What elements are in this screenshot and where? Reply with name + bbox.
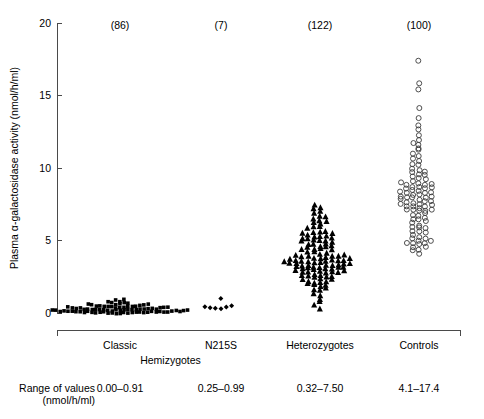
- data-point-classic: [58, 310, 62, 314]
- group-label-n215s: N215S: [205, 339, 237, 351]
- data-point-classic: [118, 300, 122, 304]
- data-point-classic: [150, 307, 154, 311]
- data-point-controls: [404, 240, 409, 245]
- data-point-heterozygotes: [310, 229, 316, 235]
- data-point-heterozygotes: [323, 213, 329, 219]
- data-point-heterozygotes: [311, 246, 317, 252]
- data-point-heterozygotes: [293, 252, 299, 258]
- data-point-classic: [175, 309, 179, 313]
- data-point-classic: [71, 306, 75, 310]
- data-point-classic: [83, 311, 87, 315]
- data-point-controls: [416, 87, 421, 92]
- data-point-classic: [126, 305, 130, 309]
- data-point-classic: [78, 310, 82, 314]
- data-point-heterozygotes: [305, 232, 311, 238]
- data-point-classic: [186, 308, 190, 312]
- data-point-classic: [155, 307, 159, 311]
- data-point-heterozygotes: [324, 250, 330, 256]
- data-point-classic: [126, 308, 130, 312]
- range-value-n215s: 0.25–0.99: [198, 382, 245, 394]
- y-axis-tick-label: 0: [45, 307, 51, 319]
- data-point-heterozygotes: [293, 257, 299, 263]
- data-point-controls: [417, 106, 422, 111]
- data-point-classic: [94, 308, 98, 312]
- data-point-controls: [416, 213, 421, 218]
- data-point-classic: [90, 308, 94, 312]
- data-point-controls: [423, 236, 428, 241]
- data-point-classic: [106, 300, 110, 304]
- data-point-n215s: [218, 306, 223, 311]
- data-point-controls: [429, 207, 434, 212]
- data-point-controls: [399, 180, 404, 185]
- range-value-controls: 4.1–17.4: [399, 382, 440, 394]
- data-point-classic: [74, 307, 78, 311]
- data-point-controls: [417, 81, 422, 86]
- data-point-classic: [122, 301, 126, 305]
- data-point-n215s: [213, 306, 218, 311]
- group-count-heterozygotes: (122): [308, 19, 333, 31]
- data-point-classic: [74, 310, 78, 314]
- data-point-heterozygotes: [341, 252, 347, 258]
- data-point-classic: [182, 309, 186, 313]
- data-point-heterozygotes: [312, 271, 318, 277]
- data-point-classic: [66, 305, 70, 309]
- data-point-classic: [70, 309, 74, 313]
- data-point-controls: [422, 169, 427, 174]
- data-point-controls: [411, 141, 416, 146]
- y-axis-tick-label: 15: [39, 89, 51, 101]
- data-point-classic: [106, 305, 110, 309]
- data-point-classic: [98, 308, 102, 312]
- data-point-heterozygotes: [299, 246, 305, 252]
- range-value-classic: 0.00–0.91: [97, 382, 144, 394]
- data-point-heterozygotes: [310, 216, 316, 222]
- data-point-classic: [126, 301, 130, 305]
- data-point-heterozygotes: [341, 257, 347, 263]
- data-point-classic: [131, 305, 135, 309]
- data-point-heterozygotes: [311, 286, 317, 292]
- data-point-heterozygotes: [287, 256, 293, 262]
- data-point-classic: [110, 309, 114, 313]
- group-label-controls: Controls: [399, 339, 438, 351]
- data-point-n215s: [229, 303, 234, 308]
- range-value-heterozygotes: 0.32–7.50: [297, 382, 344, 394]
- range-row-label-line1: Range of values: [19, 382, 95, 394]
- data-point-classic: [158, 306, 162, 310]
- data-point-classic: [87, 302, 91, 306]
- data-point-heterozygotes: [329, 262, 335, 268]
- data-point-heterozygotes: [317, 306, 323, 312]
- data-point-classic: [118, 306, 122, 310]
- data-point-heterozygotes: [335, 253, 341, 259]
- data-point-n215s: [202, 304, 207, 309]
- data-point-controls: [423, 219, 428, 224]
- data-point-classic: [110, 301, 114, 305]
- data-point-heterozygotes: [317, 251, 323, 257]
- y-axis-tick-label: 20: [39, 17, 51, 29]
- data-point-controls: [416, 116, 421, 121]
- data-point-classic: [102, 308, 106, 312]
- data-point-controls: [416, 58, 421, 63]
- data-point-classic: [134, 308, 138, 312]
- data-point-heterozygotes: [312, 202, 318, 208]
- data-point-classic: [138, 304, 142, 308]
- y-axis-tick-label: 10: [39, 162, 51, 174]
- group-label-heterozygotes: Heterozygotes: [286, 339, 354, 351]
- data-point-classic: [142, 307, 146, 311]
- data-point-heterozygotes: [322, 228, 328, 234]
- data-point-classic: [114, 303, 118, 307]
- x-axis-bracket: [57, 330, 460, 336]
- data-point-classic: [115, 312, 119, 316]
- data-point-controls: [404, 182, 409, 187]
- data-point-heterozygotes: [347, 260, 353, 266]
- data-point-classic: [114, 298, 118, 302]
- dot-plot-figure: 05101520Plasma α-galactosidase activity …: [0, 0, 484, 419]
- data-point-classic: [51, 308, 55, 312]
- data-point-n215s: [208, 305, 213, 310]
- data-point-controls: [410, 151, 415, 156]
- data-point-heterozygotes: [306, 241, 312, 247]
- data-point-controls: [417, 235, 422, 240]
- data-point-heterozygotes: [317, 229, 323, 235]
- data-point-classic: [122, 298, 126, 302]
- data-point-classic: [166, 305, 170, 309]
- data-point-classic: [90, 303, 94, 307]
- group-count-classic: (86): [111, 19, 130, 31]
